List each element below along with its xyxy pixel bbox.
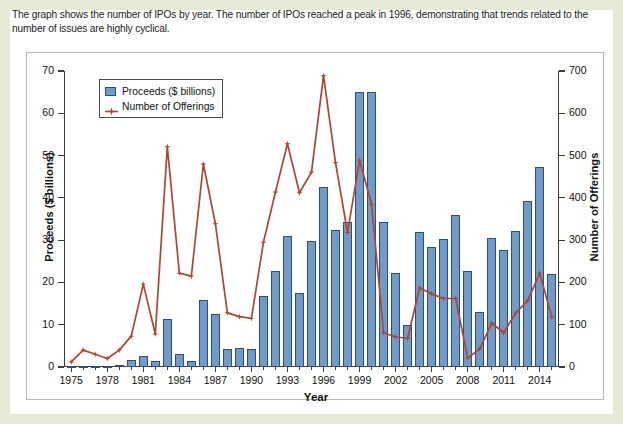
legend-item-offerings: Number of Offerings — [105, 99, 215, 113]
bar-swatch-icon — [105, 87, 116, 96]
line-data-point — [549, 314, 555, 320]
legend-label-proceeds: Proceeds ($ billions) — [122, 86, 215, 97]
x-axis-title: Year — [27, 391, 605, 403]
line-data-point — [332, 160, 338, 166]
line-data-point — [356, 157, 362, 163]
line-data-point — [224, 310, 230, 316]
line-data-point — [188, 273, 194, 279]
line-data-point — [429, 291, 435, 297]
y-axis-title-left: Proceeds ($ billions) — [43, 92, 55, 322]
line-data-point — [248, 315, 254, 321]
chart-card: 0102030405060700100200300400500600700197… — [26, 52, 604, 400]
line-data-point — [441, 295, 447, 301]
plot-area: 0102030405060700100200300400500600700197… — [27, 53, 605, 401]
chart-legend: Proceeds ($ billions) Number of Offering… — [99, 79, 223, 118]
line-data-point — [200, 161, 206, 167]
y-axis-title-right: Number of Offerings — [588, 92, 600, 322]
line-data-point — [393, 334, 399, 340]
line-data-point — [92, 351, 98, 357]
figure-page: The graph shows the number of IPOs by ye… — [0, 0, 623, 424]
line-marker-icon — [105, 102, 118, 111]
line-data-point — [537, 270, 543, 276]
line-data-point — [260, 239, 266, 245]
figure-caption: The graph shows the number of IPOs by ye… — [12, 8, 612, 35]
line-data-point — [164, 144, 170, 150]
line-data-point — [405, 335, 411, 341]
line-data-point — [453, 295, 459, 301]
line-data-point — [272, 189, 278, 195]
offerings-line — [71, 76, 552, 362]
line-data-point — [152, 331, 158, 337]
line-data-point — [140, 281, 146, 287]
line-data-point — [212, 221, 218, 227]
line-data-point — [417, 285, 423, 291]
line-data-point — [284, 141, 290, 147]
line-data-point — [320, 73, 326, 79]
line-data-point — [380, 330, 386, 336]
legend-item-proceeds: Proceeds ($ billions) — [105, 84, 215, 98]
line-data-point — [176, 270, 182, 276]
legend-label-offerings: Number of Offerings — [122, 101, 215, 112]
line-data-point — [368, 201, 374, 207]
line-data-point — [236, 314, 242, 320]
line-data-point — [344, 229, 350, 235]
